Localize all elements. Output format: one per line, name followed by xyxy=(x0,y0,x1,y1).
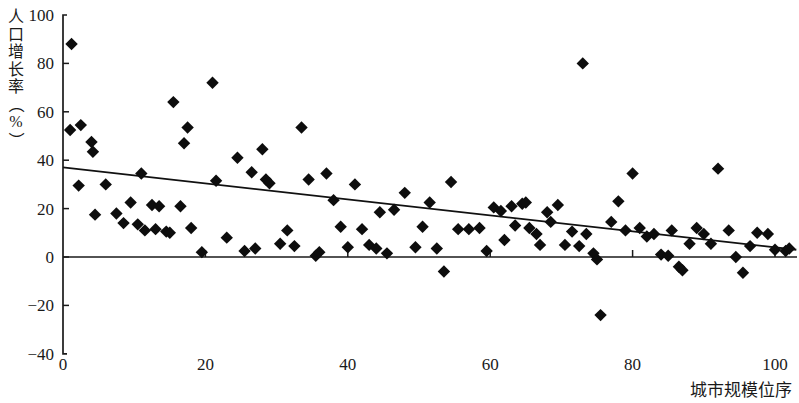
data-point-marker xyxy=(185,222,197,234)
data-point-marker xyxy=(281,224,293,236)
data-point-marker xyxy=(295,121,307,133)
data-point-marker xyxy=(744,240,756,252)
data-point-marker xyxy=(75,119,87,131)
x-tick-label: 80 xyxy=(624,355,641,374)
data-point-marker xyxy=(85,136,97,148)
data-point-marker xyxy=(110,207,122,219)
plot-area: −40−20020406080100020406080100 xyxy=(0,0,799,403)
y-tick-label: 20 xyxy=(37,200,54,219)
data-point-marker xyxy=(231,152,243,164)
data-point-marker xyxy=(534,239,546,251)
data-point-marker xyxy=(65,38,77,50)
data-point-marker xyxy=(178,137,190,149)
data-point-marker xyxy=(274,237,286,249)
data-point-marker xyxy=(256,143,268,155)
y-tick-label: 100 xyxy=(29,6,55,25)
data-point-marker xyxy=(594,309,606,321)
data-point-marker xyxy=(249,242,261,254)
data-point-marker xyxy=(498,234,510,246)
x-tick-label: 0 xyxy=(59,355,68,374)
data-point-marker xyxy=(683,237,695,249)
y-tick-label: 60 xyxy=(37,103,54,122)
data-point-marker xyxy=(580,228,592,240)
data-point-marker xyxy=(473,222,485,234)
data-point-marker xyxy=(89,208,101,220)
y-tick-label: −20 xyxy=(27,296,54,315)
data-point-marker xyxy=(135,167,147,179)
data-point-marker xyxy=(374,206,386,218)
y-tick-label: 40 xyxy=(37,151,54,170)
data-point-marker xyxy=(737,267,749,279)
data-point-marker xyxy=(452,223,464,235)
data-point-marker xyxy=(72,179,84,191)
data-point-marker xyxy=(577,57,589,69)
y-tick-label: −40 xyxy=(27,345,54,364)
data-point-marker xyxy=(64,124,76,136)
data-point-marker xyxy=(320,167,332,179)
data-point-marker xyxy=(723,224,735,236)
data-point-marker xyxy=(605,216,617,228)
data-point-marker xyxy=(612,195,624,207)
data-point-marker xyxy=(409,241,421,253)
x-tick-label: 20 xyxy=(197,355,214,374)
data-point-marker xyxy=(238,245,250,257)
x-tick-label: 60 xyxy=(482,355,499,374)
data-point-marker xyxy=(117,217,129,229)
data-point-marker xyxy=(712,162,724,174)
data-point-marker xyxy=(769,244,781,256)
data-point-marker xyxy=(334,221,346,233)
data-point-marker xyxy=(181,121,193,133)
data-point-marker xyxy=(399,187,411,199)
data-point-marker xyxy=(566,225,578,237)
data-point-marker xyxy=(149,223,161,235)
data-point-marker xyxy=(445,176,457,188)
data-point-marker xyxy=(206,77,218,89)
data-point-marker xyxy=(124,196,136,208)
data-point-marker xyxy=(174,200,186,212)
data-point-marker xyxy=(221,231,233,243)
scatter-chart-figure: 人口增长率（%） −40−20020406080100020406080100 … xyxy=(0,0,799,403)
data-point-marker xyxy=(619,224,631,236)
data-point-marker xyxy=(356,223,368,235)
data-point-marker xyxy=(730,251,742,263)
y-tick-label: 0 xyxy=(46,248,55,267)
data-point-marker xyxy=(302,173,314,185)
data-point-marker xyxy=(480,245,492,257)
data-point-marker xyxy=(167,96,179,108)
data-point-marker xyxy=(751,227,763,239)
data-point-marker xyxy=(762,228,774,240)
data-point-marker xyxy=(463,223,475,235)
data-point-marker xyxy=(327,194,339,206)
data-point-marker xyxy=(342,241,354,253)
data-point-marker xyxy=(438,265,450,277)
data-point-marker xyxy=(431,242,443,254)
data-point-marker xyxy=(626,167,638,179)
x-axis-label: 城市规模位序 xyxy=(690,376,792,401)
data-point-marker xyxy=(552,199,564,211)
data-point-marker xyxy=(509,219,521,231)
data-point-marker xyxy=(573,240,585,252)
data-point-marker xyxy=(245,166,257,178)
data-point-marker xyxy=(416,221,428,233)
data-point-marker xyxy=(559,239,571,251)
data-point-marker xyxy=(100,178,112,190)
x-tick-label: 100 xyxy=(762,355,788,374)
data-point-marker xyxy=(423,196,435,208)
x-tick-label: 40 xyxy=(339,355,356,374)
y-axis-spine xyxy=(63,15,67,354)
y-tick-label: 80 xyxy=(37,54,54,73)
data-point-marker xyxy=(349,178,361,190)
data-point-marker xyxy=(288,240,300,252)
data-point-marker xyxy=(87,146,99,158)
data-point-marker xyxy=(505,200,517,212)
